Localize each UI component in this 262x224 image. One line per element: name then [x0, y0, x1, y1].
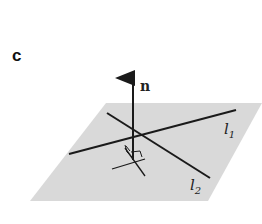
- normal-label: n: [140, 78, 150, 94]
- plane: [30, 103, 262, 201]
- plane-diagram: n l1 l2: [0, 0, 262, 224]
